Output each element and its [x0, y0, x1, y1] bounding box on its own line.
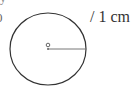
radius-label: / 1 cm	[90, 8, 130, 26]
center-point	[46, 43, 50, 47]
